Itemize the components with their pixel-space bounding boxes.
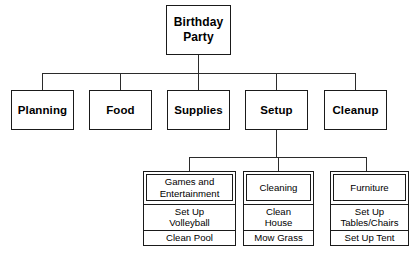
- node-label: BirthdayParty: [174, 15, 223, 44]
- node-supplies: Supplies: [167, 90, 230, 130]
- connector-drop-furniture: [366, 157, 367, 171]
- connector-drop-games: [189, 157, 190, 171]
- node-label: Setup: [260, 103, 292, 117]
- group-item: Set UpVolleyball: [144, 204, 235, 230]
- connector-drop-planning: [42, 73, 43, 90]
- node-label: Food: [106, 103, 135, 117]
- connector-root-stem: [198, 55, 199, 73]
- node-label: Planning: [18, 103, 67, 117]
- group-item: Mow Grass: [244, 230, 313, 245]
- group-items: Set UpVolleyball Clean Pool: [144, 201, 235, 245]
- node-label: Cleanup: [332, 103, 378, 117]
- group-games-and-entertainment: Games andEntertainment Set UpVolleyball …: [143, 171, 236, 246]
- node-birthday-party: BirthdayParty: [166, 5, 231, 55]
- group-item: Set UpTables/Chairs: [331, 204, 408, 230]
- connector-drop-cleanup: [355, 73, 356, 90]
- node-food: Food: [89, 90, 152, 130]
- connector-drop-setup: [276, 73, 277, 90]
- node-cleanup: Cleanup: [324, 90, 387, 130]
- group-items: Set UpTables/Chairs Set Up Tent: [331, 201, 408, 245]
- connector-drop-supplies: [198, 73, 199, 90]
- group-item: Clean Pool: [144, 230, 235, 245]
- group-header-label: Games andEntertainment: [146, 174, 233, 201]
- node-label: Supplies: [174, 103, 223, 117]
- group-items: CleanHouse Mow Grass: [244, 201, 313, 245]
- node-setup: Setup: [245, 90, 308, 130]
- connector-setup-stem: [276, 130, 277, 157]
- group-item: Set Up Tent: [331, 230, 408, 245]
- connector-drop-cleaning: [278, 157, 279, 171]
- group-cleaning: Cleaning CleanHouse Mow Grass: [243, 171, 314, 246]
- group-furniture: Furniture Set UpTables/Chairs Set Up Ten…: [330, 171, 409, 246]
- node-planning: Planning: [11, 90, 74, 130]
- group-header-label: Furniture: [333, 174, 406, 201]
- connector-drop-food: [120, 73, 121, 90]
- group-item: CleanHouse: [244, 204, 313, 230]
- wbs-diagram: BirthdayParty Planning Food Supplies Set…: [0, 0, 419, 259]
- group-header-label: Cleaning: [246, 174, 311, 201]
